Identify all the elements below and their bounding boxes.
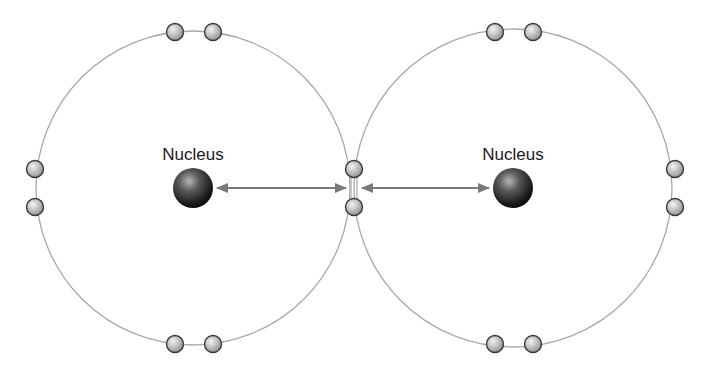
electron (205, 336, 222, 353)
electron (667, 199, 684, 216)
electrons (27, 24, 684, 353)
electron (205, 24, 222, 41)
electron (525, 336, 542, 353)
shared-electron (346, 199, 363, 216)
electron (167, 24, 184, 41)
nucleus-right (493, 168, 533, 208)
electron (27, 199, 44, 216)
electron (667, 161, 684, 178)
electron (525, 24, 542, 41)
nucleus-label-left: Nucleus (162, 145, 223, 164)
nucleus-left (173, 168, 213, 208)
shared-electron (346, 161, 363, 178)
electron (167, 336, 184, 353)
electron (487, 336, 504, 353)
electron (27, 161, 44, 178)
covalent-bond-diagram: Nucleus Nucleus (0, 0, 710, 388)
nucleus-label-right: Nucleus (482, 145, 543, 164)
electron (487, 24, 504, 41)
